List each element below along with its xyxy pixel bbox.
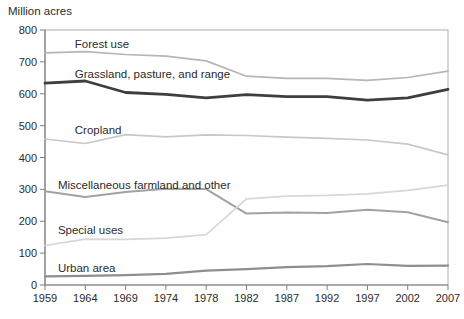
series-label-urban-area: Urban area xyxy=(58,262,116,274)
y-tick-label: 700 xyxy=(19,56,37,68)
x-tick-label: 2007 xyxy=(436,292,460,304)
x-tick-label: 1982 xyxy=(234,292,258,304)
y-tick-label: 600 xyxy=(19,88,37,100)
y-tick-label: 200 xyxy=(19,215,37,227)
x-tick-label: 1964 xyxy=(73,292,97,304)
x-tick-label: 1974 xyxy=(154,292,178,304)
y-tick-label: 500 xyxy=(19,120,37,132)
chart-canvas: 0100200300400500600700800195919641969197… xyxy=(0,0,464,319)
x-tick-label: 1997 xyxy=(355,292,379,304)
series-line-miscellaneous-farmland-and-other xyxy=(45,189,448,223)
series-label-special-uses: Special uses xyxy=(58,224,123,236)
x-tick-label: 1959 xyxy=(33,292,57,304)
y-tick-label: 400 xyxy=(19,152,37,164)
x-tick-label: 1969 xyxy=(113,292,137,304)
x-tick-label: 1978 xyxy=(194,292,218,304)
series-label-forest-use: Forest use xyxy=(75,38,129,50)
y-tick-label: 800 xyxy=(19,24,37,36)
series-label-grassland-pasture-and-range: Grassland, pasture, and range xyxy=(75,68,230,80)
x-tick-label: 2002 xyxy=(395,292,419,304)
series-label-cropland: Cropland xyxy=(75,124,122,136)
y-tick-label: 300 xyxy=(19,183,37,195)
series-line-grassland-pasture-and-range xyxy=(45,81,448,100)
series-line-cropland xyxy=(45,135,448,155)
y-tick-label: 0 xyxy=(31,279,37,291)
x-tick-label: 1987 xyxy=(275,292,299,304)
series-label-miscellaneous-farmland-and-other: Miscellaneous farmland and other xyxy=(58,179,231,191)
x-tick-label: 1992 xyxy=(315,292,339,304)
land-use-line-chart: Million acres 01002003004005006007008001… xyxy=(0,0,464,319)
y-tick-label: 100 xyxy=(19,247,37,259)
